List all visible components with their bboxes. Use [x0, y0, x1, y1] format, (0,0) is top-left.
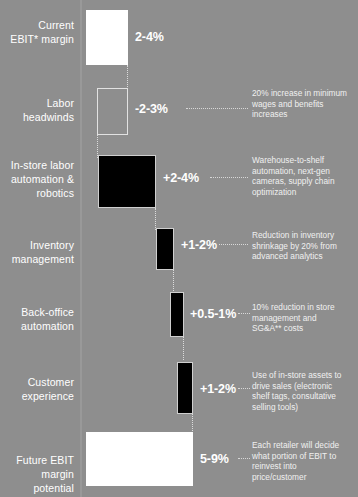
category-label-line: automation — [0, 319, 74, 333]
value-label-back-office-automation: +0.5-1% — [190, 307, 236, 321]
category-label-line: management — [0, 252, 74, 266]
annotation-future-ebit-margin-potential: Each retailer will decide what portion o… — [252, 440, 348, 482]
annotation-labor-headwinds: 20% increase in minimum wages and benefi… — [252, 88, 348, 120]
category-label-line: Customer — [0, 375, 74, 389]
leader-line-instore-labor-automation — [210, 177, 248, 178]
category-label-current-ebit-margin: Current EBIT* margin — [0, 18, 74, 46]
category-label-line: EBIT* margin — [0, 32, 74, 46]
leader-line-future-ebit-margin-potential — [238, 458, 250, 459]
category-label-line: Inventory — [0, 238, 74, 252]
value-label-future-ebit-margin-potential: 5-9% — [200, 452, 229, 466]
value-label-instore-labor-automation: +2-4% — [163, 171, 199, 185]
value-label-inventory-management: +1-2% — [181, 238, 217, 252]
bar-future-ebit-margin-potential — [86, 432, 193, 486]
category-label-line: Future EBIT — [0, 453, 74, 467]
category-label-line: automation & — [0, 172, 74, 186]
category-label-line: Labor — [0, 96, 74, 110]
annotation-inventory-management: Reduction in inventory shrinkage by 20% … — [252, 230, 348, 262]
category-label-future-ebit-margin-potential: Future EBIT margin potential — [0, 453, 74, 495]
category-label-inventory-management: Inventory management — [0, 238, 74, 266]
waterfall-chart: Current EBIT* margin 2-4% Labor headwind… — [0, 0, 358, 497]
bar-instore-labor-automation — [98, 155, 156, 208]
category-label-labor-headwinds: Labor headwinds — [0, 96, 74, 124]
bar-inventory-management — [156, 228, 174, 270]
leader-line-labor-headwinds — [186, 108, 248, 109]
bar-current-ebit-margin — [86, 10, 128, 65]
category-label-line: headwinds — [0, 110, 74, 124]
category-label-line: In-store labor — [0, 158, 74, 172]
leader-line-inventory-management — [219, 244, 248, 245]
annotation-instore-labor-automation: Warehouse-to-shelf automation, next-gen … — [252, 155, 348, 197]
bar-labor-headwinds — [97, 88, 128, 135]
category-label-line: margin potential — [0, 467, 74, 495]
annotation-customer-experience: Use of in-store assets to drive sales (e… — [252, 370, 348, 412]
category-label-line: Back-office — [0, 305, 74, 319]
leader-line-customer-experience — [238, 388, 250, 389]
chart-axis-line — [80, 0, 82, 497]
step-connector — [127, 65, 128, 89]
category-label-instore-labor-automation: In-store labor automation & robotics — [0, 158, 74, 200]
leader-line-back-office-automation — [238, 313, 250, 314]
value-label-current-ebit-margin: 2-4% — [135, 30, 164, 44]
category-label-line: Current — [0, 18, 74, 32]
category-label-line: experience — [0, 389, 74, 403]
bar-customer-experience — [177, 362, 193, 414]
bar-back-office-automation — [170, 292, 184, 337]
step-connector — [173, 270, 174, 293]
category-label-line: robotics — [0, 186, 74, 200]
annotation-back-office-automation: 10% reduction in store management and SG… — [252, 302, 348, 334]
step-connector — [155, 208, 156, 230]
value-label-labor-headwinds: -2-3% — [135, 102, 168, 116]
category-label-customer-experience: Customer experience — [0, 375, 74, 403]
value-label-customer-experience: +1-2% — [200, 382, 236, 396]
category-label-back-office-automation: Back-office automation — [0, 305, 74, 333]
step-connector — [183, 337, 184, 360]
